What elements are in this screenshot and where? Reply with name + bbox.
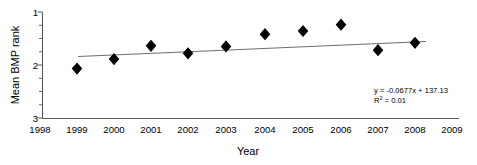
chart-figure: Mean BMP rank 1 2 3 1998 1999 2000 2001 … [0,0,477,165]
x-axis-title: Year [237,145,260,157]
data-point-2008 [410,37,421,49]
x-tick-label-2007: 2007 [367,124,388,135]
x-tick-label-2004: 2004 [254,124,276,135]
data-point-2005 [298,25,309,37]
data-point-1999 [72,63,83,75]
y-tick-label-1: 1 [33,7,38,18]
x-tick-label-2009: 2009 [441,124,462,135]
x-tick-label-1998: 1998 [29,124,50,135]
data-point-2007 [373,44,384,56]
r-squared-value: = 0.01 [382,96,405,105]
x-tick-label-2003: 2003 [215,124,236,135]
y-tick-label-2: 2 [33,60,38,71]
x-tick-label-2001: 2001 [140,124,161,135]
scatter-plot: Mean BMP rank 1 2 3 1998 1999 2000 2001 … [0,0,477,165]
x-tick-label-2000: 2000 [103,124,124,135]
data-point-2006 [336,19,347,31]
data-point-2004 [260,28,271,40]
y-axis-title: Mean BMP rank [9,25,21,104]
y-tick-label-3: 3 [33,113,38,124]
data-point-2001 [146,40,157,52]
trendline-equation-label: y = -0.0677x + 137.13 [374,86,448,95]
x-tick-label-2008: 2008 [404,124,425,135]
r-squared-label: R2 = 0.01 [374,95,406,105]
x-tick-label-2006: 2006 [330,124,351,135]
x-tick-label-2002: 2002 [177,124,198,135]
data-point-2002 [183,47,194,59]
x-tick-label-1999: 1999 [66,124,87,135]
x-tick-label-2005: 2005 [292,124,313,135]
